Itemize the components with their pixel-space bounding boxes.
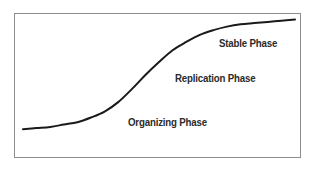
annotation-organizing-phase: Organizing Phase bbox=[128, 117, 207, 128]
annotation-stable-phase: Stable Phase bbox=[219, 38, 277, 49]
growth-curve-figure: Stable Phase Replication Phase Organizin… bbox=[0, 0, 316, 172]
sigmoid-curve-chart bbox=[15, 14, 302, 159]
annotation-replication-phase: Replication Phase bbox=[175, 73, 255, 84]
plot-frame bbox=[14, 13, 301, 158]
